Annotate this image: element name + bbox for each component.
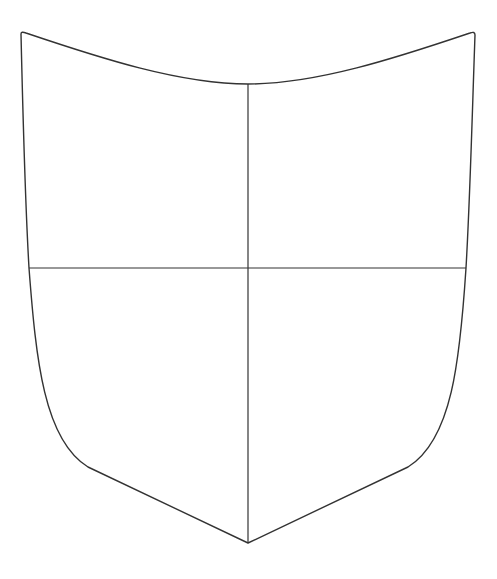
shield-drawing xyxy=(0,0,497,579)
drawing-canvas xyxy=(0,0,497,579)
